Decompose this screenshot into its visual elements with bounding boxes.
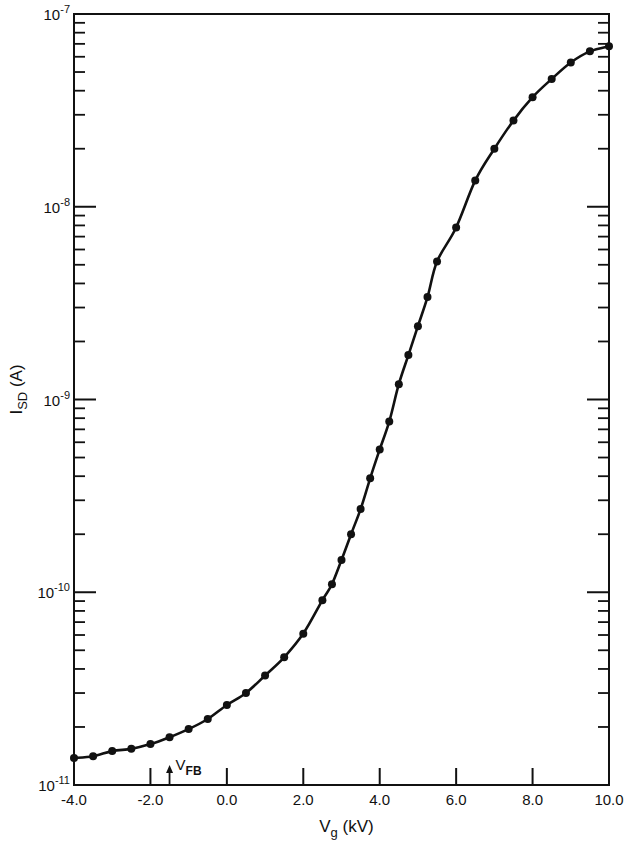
- y-axis-label: ISD (A): [7, 364, 30, 414]
- y-tick-label: 10-9: [44, 389, 70, 409]
- x-tick-label: -2.0: [137, 791, 163, 808]
- x-tick-label: 8.0: [522, 791, 543, 808]
- data-point-marker: [404, 351, 412, 359]
- data-point-marker: [567, 59, 575, 67]
- x-tick-label: 6.0: [446, 791, 467, 808]
- data-point-marker: [423, 293, 431, 301]
- data-point-marker: [605, 42, 613, 50]
- x-tick-label: 0.0: [216, 791, 237, 808]
- data-point-marker: [299, 630, 307, 638]
- data-point-marker: [414, 322, 422, 330]
- chart: 10-1110-1010-910-810-7 -4.0-2.00.02.04.0…: [0, 0, 628, 843]
- x-axis-ticks: -4.0-2.00.02.04.06.08.010.0: [61, 768, 624, 808]
- data-point-marker: [280, 653, 288, 661]
- data-point-marker: [433, 257, 441, 265]
- isd-vs-vg-log-plot: 10-1110-1010-910-810-7 -4.0-2.00.02.04.0…: [0, 0, 628, 843]
- data-point-marker: [127, 745, 135, 753]
- data-point-marker: [366, 474, 374, 482]
- x-tick-label: 10.0: [594, 791, 623, 808]
- data-point-marker: [146, 740, 154, 748]
- plot-frame: [74, 14, 609, 785]
- data-point-marker: [395, 380, 403, 388]
- data-point-marker: [529, 93, 537, 101]
- data-point-marker: [223, 701, 231, 709]
- vfb-label: VFB: [176, 756, 202, 778]
- arrow-up-icon: [166, 765, 173, 773]
- data-point-marker: [318, 596, 326, 604]
- x-axis-label: Vg (kV): [319, 817, 373, 840]
- data-series: [70, 42, 613, 762]
- x-tick-label: 2.0: [293, 791, 314, 808]
- curve-line: [74, 46, 609, 758]
- x-tick-label: 4.0: [369, 791, 390, 808]
- data-point-marker: [108, 747, 116, 755]
- plot-border: [74, 14, 609, 785]
- y-tick-label: 10-8: [44, 196, 70, 216]
- data-point-marker: [509, 117, 517, 125]
- data-point-marker: [347, 530, 355, 538]
- data-point-marker: [452, 224, 460, 232]
- data-point-marker: [166, 733, 174, 741]
- data-point-marker: [471, 176, 479, 184]
- data-point-marker: [242, 689, 250, 697]
- data-point-marker: [376, 446, 384, 454]
- x-tick-label: -4.0: [61, 791, 87, 808]
- data-point-marker: [89, 752, 97, 760]
- data-point-marker: [490, 145, 498, 153]
- data-point-marker: [204, 715, 212, 723]
- data-point-marker: [70, 754, 78, 762]
- data-point-marker: [328, 580, 336, 588]
- data-point-marker: [185, 725, 193, 733]
- data-point-marker: [338, 556, 346, 564]
- data-point-marker: [261, 671, 269, 679]
- y-tick-label: 10-10: [37, 581, 70, 601]
- data-point-marker: [385, 417, 393, 425]
- data-point-marker: [586, 47, 594, 55]
- vfb-annotation: VFB: [166, 756, 202, 785]
- y-axis-ticks: 10-1110-1010-910-810-7: [37, 3, 609, 794]
- data-point-marker: [357, 505, 365, 513]
- y-tick-label: 10-7: [44, 3, 70, 23]
- data-point-marker: [548, 75, 556, 83]
